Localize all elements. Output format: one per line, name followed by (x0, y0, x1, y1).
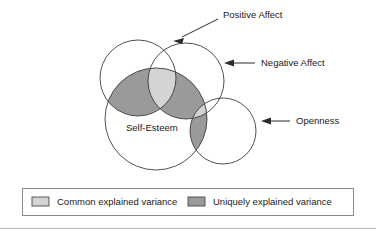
negative-affect-arrowhead-icon (224, 60, 234, 67)
legend: Common explained variance Uniquely expla… (23, 189, 354, 216)
openness-label: Openness (296, 115, 340, 126)
negative-affect-label: Negative Affect (261, 57, 325, 68)
callout-openness: Openness (261, 115, 340, 126)
venn-diagram-canvas: Self-Esteem Positive Affect Negative Aff… (0, 0, 376, 234)
callout-positive-affect: Positive Affect (173, 9, 283, 44)
legend-swatch-common (32, 197, 49, 206)
legend-label-common: Common explained variance (57, 196, 177, 207)
legend-label-unique: Uniquely explained variance (213, 196, 332, 207)
self-esteem-label: Self-Esteem (126, 122, 178, 133)
positive-affect-leader-line (182, 19, 218, 37)
venn-figure: Self-Esteem Positive Affect Negative Aff… (0, 0, 376, 234)
openness-arrowhead-icon (261, 118, 271, 125)
positive-affect-label: Positive Affect (223, 9, 283, 20)
callout-negative-affect: Negative Affect (224, 57, 325, 68)
legend-swatch-unique (188, 197, 205, 206)
